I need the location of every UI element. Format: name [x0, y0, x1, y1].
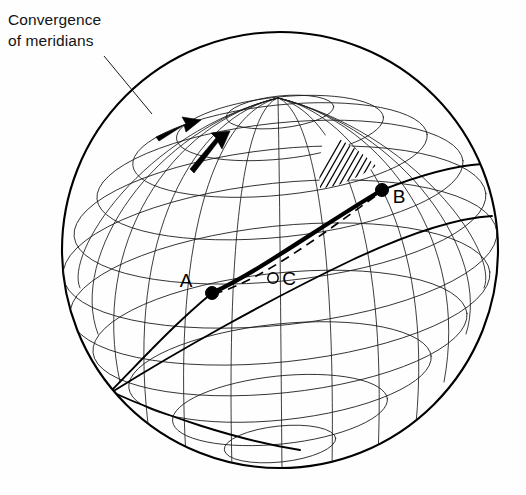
- point-a-marker: [206, 287, 219, 300]
- caption-convergence-of-meridians: Convergence of meridians: [8, 10, 168, 52]
- geodesic-AB: [212, 190, 382, 293]
- parallel-60S: [169, 365, 391, 455]
- hatched-wedge: [300, 114, 428, 212]
- figure-root: Convergence of meridians: [0, 0, 526, 495]
- caption-line-1: Convergence: [8, 10, 168, 31]
- graticule-group: [56, 86, 504, 472]
- point-b-label: B: [393, 186, 406, 207]
- caption-leader-line: [104, 56, 152, 114]
- wedge-hatching: [300, 114, 428, 212]
- point-c-label: C: [282, 268, 296, 289]
- great-circle-track-southwest: [104, 293, 212, 398]
- convergence-arrows: [156, 117, 230, 173]
- meridian-075W: [92, 98, 278, 334]
- globe-diagram-svg: A B C: [0, 0, 526, 495]
- point-a-label: A: [180, 270, 193, 291]
- point-b-marker: [376, 184, 389, 197]
- caption-line-2: of meridians: [8, 31, 168, 52]
